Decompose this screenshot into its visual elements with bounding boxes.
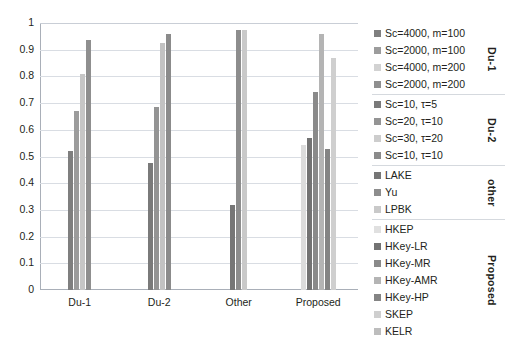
legend-item-label: LPBK: [385, 204, 412, 215]
y-tick-label: 0.6: [19, 124, 34, 134]
legend-swatch-icon: [374, 81, 381, 88]
bar: [154, 107, 159, 290]
legend-item[interactable]: HKey-MR: [372, 255, 479, 272]
legend-item-label: Sc=4000, m=200: [385, 62, 465, 73]
bar-group-du-2: [120, 23, 200, 290]
bar: [307, 138, 312, 290]
x-axis-labels: Du-1Du-2OtherProposed: [40, 296, 358, 318]
bar-group-du-1: [40, 23, 120, 290]
legend-item-label: SKEP: [385, 309, 413, 320]
y-tick-label: 0.4: [19, 177, 34, 187]
y-tick-label: 0.3: [19, 204, 34, 214]
x-tick-label: Proposed: [279, 296, 359, 318]
legend-item[interactable]: HKey-LR: [372, 238, 479, 255]
legend-item[interactable]: KELR: [372, 323, 479, 339]
legend-item-label: Sc=2000, m=200: [385, 79, 465, 90]
y-tick-label: 0.2: [19, 231, 34, 241]
legend-item-label: HKey-MR: [385, 258, 431, 269]
legend-swatch-icon: [374, 64, 381, 71]
legend-item[interactable]: Sc=10, τ=5: [372, 96, 479, 113]
legend-group-other: LAKEYuLPBKother: [372, 165, 505, 219]
bar: [331, 58, 336, 290]
y-tick-label: 0.8: [19, 70, 34, 80]
bar-group-proposed: [279, 23, 359, 290]
plot-area: 10.90.80.70.60.50.40.30.20.10 Du-1Du-2Ot…: [0, 0, 372, 324]
bar: [319, 34, 324, 290]
legend-swatch-icon: [374, 101, 381, 108]
legend-swatch-icon: [374, 243, 381, 250]
legend-swatch-icon: [374, 118, 381, 125]
legend-item-label: KELR: [385, 326, 412, 337]
legend-swatch-icon: [374, 277, 381, 284]
legend-item[interactable]: Sc=30, τ=20: [372, 130, 479, 147]
legend-item[interactable]: LAKE: [372, 167, 479, 184]
legend-item-label: HKEP: [385, 224, 414, 235]
legend-item-label: Sc=10, τ=10: [385, 150, 443, 161]
legend-group-proposed: HKEPHKey-LRHKey-MRHKey-AMRHKey-HPSKEPKEL…: [372, 219, 505, 339]
bar: [230, 205, 235, 290]
legend-group-title: Du-1: [479, 24, 505, 94]
legend-swatch-icon: [374, 30, 381, 37]
legend-swatch-icon: [374, 328, 381, 335]
legend-swatch-icon: [374, 260, 381, 267]
x-tick-label: Du-1: [40, 296, 120, 318]
bar: [242, 30, 247, 290]
legend-item-label: LAKE: [385, 170, 412, 181]
legend-item-label: HKey-HP: [385, 292, 429, 303]
legend-item[interactable]: HKey-HP: [372, 289, 479, 306]
legend: Sc=4000, m=100Sc=2000, m=100Sc=4000, m=2…: [372, 24, 505, 304]
y-tick-label: 0.5: [19, 151, 34, 161]
legend-group-title: Du-2: [479, 95, 505, 165]
legend-item[interactable]: Sc=2000, m=100: [372, 42, 479, 59]
legend-item[interactable]: HKey-AMR: [372, 272, 479, 289]
legend-item-label: Sc=2000, m=100: [385, 45, 465, 56]
y-tick-label: 0.7: [19, 97, 34, 107]
bar: [160, 43, 165, 290]
bar: [236, 30, 241, 290]
bar: [68, 151, 73, 290]
legend-swatch-icon: [374, 172, 381, 179]
legend-group-title: other: [479, 166, 505, 219]
legend-swatch-icon: [374, 206, 381, 213]
legend-group-du-1: Sc=4000, m=100Sc=2000, m=100Sc=4000, m=2…: [372, 24, 505, 94]
legend-group-title: Proposed: [479, 220, 505, 339]
legend-item-label: Sc=4000, m=100: [385, 28, 465, 39]
bar: [80, 74, 85, 290]
x-tick-label: Du-2: [120, 296, 200, 318]
legend-swatch-icon: [374, 152, 381, 159]
bar-group-other: [199, 23, 279, 290]
bar: [313, 92, 318, 290]
legend-item-label: HKey-AMR: [385, 275, 438, 286]
bar: [148, 163, 153, 290]
bar: [301, 145, 306, 291]
y-tick-label: 0.9: [19, 44, 34, 54]
legend-item[interactable]: Sc=4000, m=200: [372, 59, 479, 76]
bar: [325, 149, 330, 291]
legend-item[interactable]: LPBK: [372, 201, 479, 218]
legend-item[interactable]: Sc=2000, m=200: [372, 76, 479, 93]
legend-item-label: Sc=20, τ=10: [385, 116, 443, 127]
legend-item-label: HKey-LR: [385, 241, 428, 252]
legend-swatch-icon: [374, 294, 381, 301]
x-tick-label: Other: [199, 296, 279, 318]
bar: [74, 111, 79, 290]
legend-item[interactable]: HKEP: [372, 221, 479, 238]
bar: [86, 40, 91, 290]
legend-item[interactable]: Sc=20, τ=10: [372, 113, 479, 130]
legend-item-label: Sc=30, τ=20: [385, 133, 443, 144]
legend-item[interactable]: Yu: [372, 184, 479, 201]
legend-swatch-icon: [374, 47, 381, 54]
legend-swatch-icon: [374, 226, 381, 233]
legend-item-label: Sc=10, τ=5: [385, 99, 437, 110]
y-tick-label: 1: [28, 17, 34, 27]
legend-item[interactable]: Sc=4000, m=100: [372, 25, 479, 42]
y-tick-label: 0.1: [19, 257, 34, 267]
y-axis-labels: 10.90.80.70.60.50.40.30.20.10: [0, 0, 38, 324]
legend-swatch-icon: [374, 311, 381, 318]
legend-item[interactable]: SKEP: [372, 306, 479, 323]
legend-group-list: Sc=4000, m=100Sc=2000, m=100Sc=4000, m=2…: [372, 24, 505, 339]
legend-item[interactable]: Sc=10, τ=10: [372, 147, 479, 164]
legend-item-label: Yu: [385, 187, 397, 198]
legend-swatch-icon: [374, 189, 381, 196]
